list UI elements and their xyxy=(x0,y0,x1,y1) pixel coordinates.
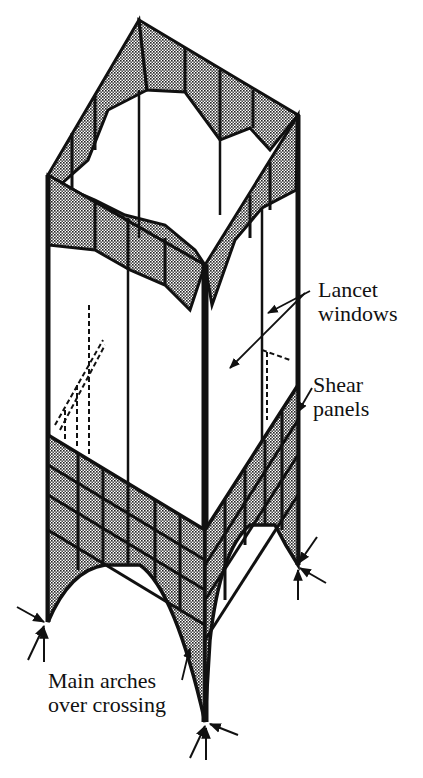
label-arches-line2: over crossing xyxy=(48,693,166,717)
label-lancet-line1: Lancet xyxy=(318,278,397,302)
label-lancet-line2: windows xyxy=(318,302,397,326)
label-shear-panels: Shear panels xyxy=(313,373,369,421)
top-ring xyxy=(48,20,298,310)
label-main-arches: Main arches over crossing xyxy=(48,669,166,717)
lancet-window-outlines xyxy=(55,305,290,455)
label-arches-line1: Main arches xyxy=(48,669,166,693)
label-lancet-windows: Lancet windows xyxy=(318,278,397,326)
label-shear-line2: panels xyxy=(313,397,369,421)
label-shear-line1: Shear xyxy=(313,373,369,397)
